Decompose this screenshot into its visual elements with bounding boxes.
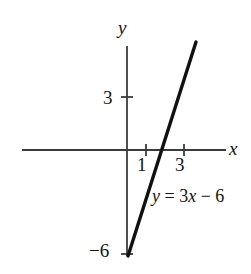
- y-axis-label: y: [118, 18, 126, 37]
- equation-coefficient: 3: [179, 186, 188, 206]
- equation-lhs: y: [152, 186, 160, 206]
- coordinate-plane: [0, 0, 251, 274]
- line-y-equals-3x-minus-6: [128, 42, 196, 256]
- equation-constant: 6: [215, 186, 224, 206]
- graph-figure: y x 3 1 3 −6 y = 3x − 6: [0, 0, 251, 274]
- x-tick-label-1: 1: [137, 155, 147, 174]
- x-tick-label-3: 3: [175, 155, 185, 174]
- equation-minus: −: [201, 186, 211, 206]
- equation-operator: =: [165, 186, 175, 206]
- equation-variable: x: [188, 186, 196, 206]
- y-tick-label-neg6: −6: [89, 241, 109, 260]
- y-tick-label-3: 3: [103, 88, 113, 107]
- x-axis-label: x: [229, 139, 237, 158]
- equation-annotation: y = 3x − 6: [152, 187, 224, 205]
